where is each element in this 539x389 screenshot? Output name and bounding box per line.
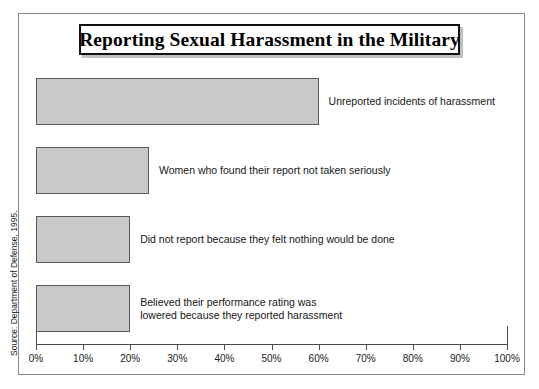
bar-label: Women who found their report not taken s… xyxy=(159,164,391,177)
x-axis-tick-mark xyxy=(36,344,37,350)
x-axis-right-cap xyxy=(507,326,508,345)
x-axis-tick-mark xyxy=(413,344,414,350)
x-axis-tick-mark xyxy=(177,344,178,350)
chart-figure: Reporting Sexual Harassment in the Milit… xyxy=(0,0,539,389)
x-axis-tick-label: 100% xyxy=(477,353,537,364)
bar xyxy=(36,147,149,194)
bar xyxy=(36,216,130,263)
x-axis-tick-mark xyxy=(272,344,273,350)
x-axis-tick-mark xyxy=(130,344,131,350)
bar-label: Unreported incidents of harassment xyxy=(329,95,495,108)
chart-title-box: Reporting Sexual Harassment in the Milit… xyxy=(79,24,460,55)
x-axis-tick-mark xyxy=(507,344,508,350)
x-axis-tick-mark xyxy=(83,344,84,350)
bar xyxy=(36,78,319,125)
source-note: Source: Department of Defense, 1995. xyxy=(7,206,21,356)
bar-label: Believed their performance rating was lo… xyxy=(140,296,342,321)
x-axis-tick-mark xyxy=(460,344,461,350)
bar-label: Did not report because they felt nothing… xyxy=(140,233,395,246)
x-axis-tick-mark xyxy=(366,344,367,350)
x-axis-tick-mark xyxy=(224,344,225,350)
bar xyxy=(36,285,130,332)
page-title: Reporting Sexual Harassment in the Milit… xyxy=(79,29,460,51)
x-axis-tick-mark xyxy=(319,344,320,350)
